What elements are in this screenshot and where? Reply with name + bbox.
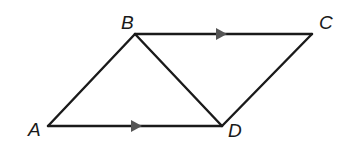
parallelogram-diagram: B C A D — [0, 0, 346, 149]
label-a: A — [27, 119, 41, 140]
segment-ab — [48, 34, 135, 126]
parallel-arrow-bc-icon — [216, 28, 227, 40]
label-b: B — [121, 12, 134, 33]
segment-bd — [135, 34, 222, 126]
label-d: D — [228, 120, 242, 141]
segment-cd — [222, 34, 312, 126]
label-c: C — [319, 12, 333, 33]
parallel-arrow-ad-icon — [131, 120, 142, 132]
